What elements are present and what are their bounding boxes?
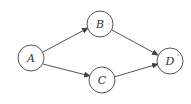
node-b: B — [87, 11, 113, 37]
edge-a-c — [43, 64, 90, 76]
edge-b-d — [112, 30, 158, 55]
node-b-label: B — [95, 18, 104, 31]
node-c-label: C — [98, 74, 107, 87]
directed-graph: A B C D o — [0, 0, 191, 104]
node-a-label: A — [26, 52, 35, 65]
node-a: A — [18, 45, 44, 71]
node-d: D o — [157, 48, 183, 74]
node-c: C — [89, 67, 115, 93]
edge-c-d — [114, 64, 158, 77]
node-d-label: D — [165, 55, 175, 68]
edge-a-b — [43, 28, 88, 52]
